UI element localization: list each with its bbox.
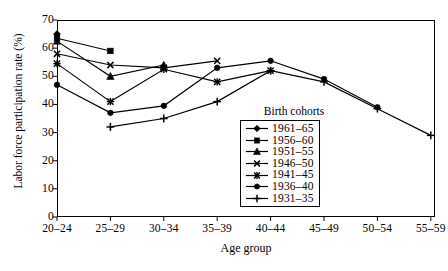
legend-item[interactable]: 1936–40 — [244, 181, 314, 193]
data-point-circle — [214, 65, 220, 71]
data-point-star — [254, 172, 261, 179]
series-line — [57, 41, 164, 76]
data-point-circle — [254, 184, 259, 189]
data-point-circle — [54, 82, 60, 88]
series-1941-45 — [53, 60, 274, 105]
legend-item[interactable]: 1961–65 — [244, 123, 314, 135]
data-point-circle — [108, 110, 114, 116]
data-point-plus — [427, 131, 435, 139]
legend-marker-plus-icon — [244, 193, 270, 204]
legend-marker-circle-icon — [244, 181, 270, 192]
series-line — [57, 38, 110, 51]
data-point-star — [214, 78, 221, 85]
legend: 1961–651956–601951–551946–501941–451936–… — [240, 120, 320, 207]
data-point-diamond — [254, 125, 261, 132]
legend-marker-star-icon — [244, 170, 270, 181]
legend-label: 1951–55 — [270, 146, 314, 158]
data-point-star — [107, 98, 114, 105]
data-point-plus — [253, 195, 260, 202]
data-point-circle — [161, 103, 167, 109]
legend-label: 1961–65 — [270, 123, 314, 135]
legend-label: 1931–35 — [270, 193, 314, 205]
legend-marker-cross-x-icon — [244, 158, 270, 169]
legend-marker-square-icon — [244, 135, 270, 146]
data-point-circle — [268, 58, 274, 64]
data-point-plus — [213, 98, 221, 106]
legend-marker-triangle-icon — [244, 146, 270, 157]
data-point-square — [108, 48, 114, 54]
data-point-plus — [107, 123, 115, 131]
legend-marker-diamond-icon — [244, 123, 270, 134]
series-line — [57, 54, 217, 68]
figure: 010203040506070 Labor force participatio… — [0, 0, 448, 271]
legend-item[interactable]: 1931–35 — [244, 193, 314, 205]
data-point-star — [53, 60, 60, 67]
series-1946-50 — [54, 51, 220, 71]
data-point-square — [254, 138, 259, 143]
data-point-plus — [160, 115, 168, 123]
legend-label: 1936–40 — [270, 181, 314, 193]
data-point-star — [160, 66, 167, 73]
legend-title: Birth cohorts — [234, 105, 354, 117]
series-lines-layer — [0, 0, 448, 271]
